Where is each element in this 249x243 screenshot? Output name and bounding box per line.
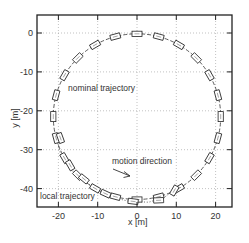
- nominal-vehicle-icon: [173, 40, 184, 50]
- nominal-vehicle-icon: [214, 90, 222, 101]
- grid-lines: [37, 15, 232, 207]
- nominal-vehicle-icon: [51, 112, 56, 122]
- nominal-vehicle-icon: [72, 53, 83, 64]
- nominal-vehicle-icon: [60, 70, 70, 81]
- y-tick-label: -20: [20, 106, 33, 116]
- nominal-trajectory-label: nominal trajectory: [68, 83, 136, 93]
- x-tick-label: -10: [91, 211, 104, 221]
- x-tick-label: -20: [52, 211, 65, 221]
- local-vehicle-icon: [78, 174, 89, 184]
- y-tick-label: 0: [28, 28, 33, 38]
- nominal-vehicle-icon: [132, 31, 142, 36]
- nominal-vehicle-icon: [205, 152, 215, 163]
- nominal-vehicle-icon: [110, 193, 121, 201]
- nominal-vehicle-icon: [214, 133, 222, 144]
- nominal-vehicle-icon: [89, 40, 100, 50]
- nominal-vehicle-icon: [191, 170, 202, 181]
- nominal-vehicle-icon: [205, 70, 215, 81]
- trajectory-chart: -20-10010200-10-20-30-40 nominal traject…: [0, 0, 249, 243]
- local-vehicle-icon: [153, 197, 163, 203]
- nominal-vehicle-icon: [153, 33, 164, 41]
- local-trajectory-label: local trajectory: [40, 191, 96, 201]
- y-tick-label: -30: [20, 145, 33, 155]
- local-vehicle-icon: [100, 189, 111, 198]
- x-tick-label: 20: [211, 211, 221, 221]
- nominal-vehicle-icon: [110, 33, 121, 41]
- nominal-vehicle-icon: [218, 112, 223, 122]
- y-tick-label: -10: [20, 67, 33, 77]
- nominal-vehicle-icon: [52, 90, 60, 101]
- motion-arrow-icon: [113, 169, 130, 178]
- local-vehicle-icon: [170, 185, 180, 196]
- x-tick-label: 10: [171, 211, 181, 221]
- x-axis-label: x [m]: [128, 217, 148, 227]
- nominal-vehicle-icon: [191, 53, 202, 64]
- y-tick-label: -40: [20, 184, 33, 194]
- y-axis-label: y [m]: [10, 108, 20, 128]
- local-vehicle-icon: [65, 160, 75, 171]
- motion-direction-label: motion direction: [112, 156, 172, 166]
